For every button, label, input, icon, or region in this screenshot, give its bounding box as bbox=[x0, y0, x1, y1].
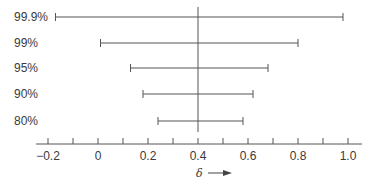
x-axis-label: δ bbox=[196, 167, 203, 180]
interval-row: 99.9% bbox=[14, 10, 343, 24]
interval-row: 90% bbox=[14, 87, 253, 101]
x-axis: −0.200.20.40.60.81.0 bbox=[36, 138, 362, 163]
interval-row: 95% bbox=[14, 61, 268, 75]
interval-label: 90% bbox=[14, 87, 38, 101]
interval-group: 99.9%99%95%90%80% bbox=[14, 10, 343, 128]
x-tick-label: −0.2 bbox=[36, 149, 60, 163]
x-tick-label: 1.0 bbox=[340, 149, 357, 163]
interval-label: 95% bbox=[14, 61, 38, 75]
x-tick-label: 0 bbox=[95, 149, 102, 163]
arrow-right-icon bbox=[208, 170, 232, 176]
x-tick-label: 0.6 bbox=[240, 149, 257, 163]
confidence-interval-chart: 99.9%99%95%90%80% −0.200.20.40.60.81.0 δ bbox=[0, 0, 374, 183]
interval-label: 80% bbox=[14, 114, 38, 128]
interval-label: 99.9% bbox=[14, 10, 48, 24]
x-tick-label: 0.4 bbox=[190, 149, 207, 163]
x-tick-label: 0.8 bbox=[290, 149, 307, 163]
interval-row: 99% bbox=[14, 36, 298, 50]
x-tick-label: 0.2 bbox=[140, 149, 157, 163]
interval-label: 99% bbox=[14, 36, 38, 50]
interval-row: 80% bbox=[14, 114, 243, 128]
